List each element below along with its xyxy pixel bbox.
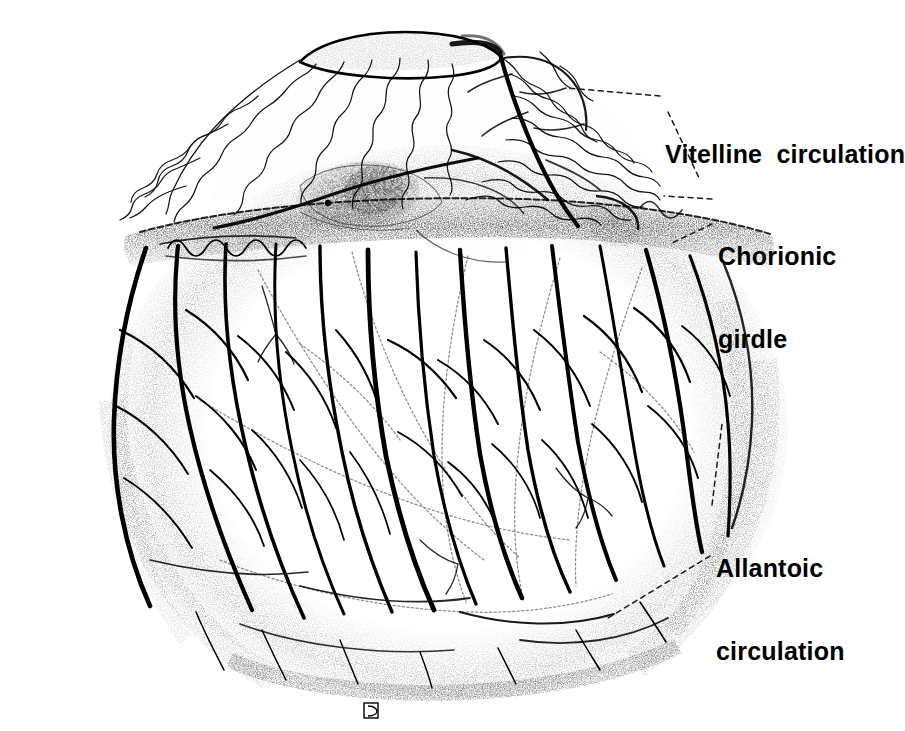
label-chorionic-line2: girdle [718, 326, 836, 354]
label-allantoic-line1: Allantoic [716, 555, 845, 583]
label-vitelline-text: Vitelline circulation [665, 141, 905, 169]
artist-signature [364, 703, 378, 718]
label-vitelline-circulation: Vitelline circulation [665, 86, 905, 196]
label-chorionic-line1: Chorionic [718, 243, 836, 271]
label-chorionic-girdle: Chorionic girdle [718, 188, 836, 381]
label-allantoic-circulation: Allantoic circulation [716, 500, 845, 693]
label-allantoic-line2: circulation [716, 638, 845, 666]
